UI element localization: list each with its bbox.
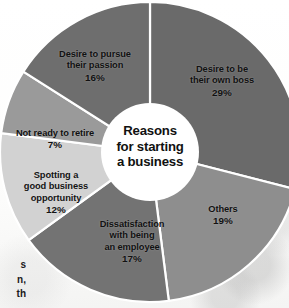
- slice-value: 29%: [176, 87, 268, 98]
- slice-label-line: Dissatisfaction: [84, 219, 180, 230]
- slice-value: 12%: [10, 204, 102, 215]
- slice-value: 16%: [44, 72, 146, 83]
- slice-label-desire-to-be-their-own-boss: Desire to be their own boss 29%: [176, 64, 268, 98]
- cropped-edge-caption: s n, th: [0, 258, 26, 302]
- slice-label-line: Desire to pursue: [44, 49, 146, 60]
- slice-label-line: their passion: [44, 60, 146, 71]
- center-title-line: Reasons: [94, 123, 206, 139]
- slice-value: 7%: [6, 139, 104, 150]
- slice-label-line: with being: [84, 230, 180, 241]
- center-title-line: for starting: [94, 139, 206, 155]
- slice-label-dissatisfaction-with-being-an-employee: Dissatisfaction with being an employee 1…: [84, 219, 180, 265]
- donut-chart-screenshot: Desire to be their own boss 29% Others 1…: [0, 0, 289, 308]
- slice-label-line: Not ready to retire: [6, 128, 104, 139]
- slice-label-line: their own boss: [176, 75, 268, 86]
- slice-label-line: Desire to be: [176, 64, 268, 75]
- chart-center-title: Reasons for starting a business: [94, 123, 206, 170]
- slice-label-line: opportunity: [10, 193, 102, 204]
- slice-label-others: Others 19%: [187, 204, 259, 227]
- slice-label-not-ready-to-retire: Not ready to retire 7%: [6, 128, 104, 151]
- slice-label-spotting-a-good-business-opportunity: Spotting a good business opportunity 12%: [10, 170, 102, 216]
- slice-value: 17%: [84, 253, 180, 264]
- slice-label-line: good business: [10, 181, 102, 192]
- slice-value: 19%: [187, 215, 259, 226]
- slice-label-line: Others: [187, 204, 259, 215]
- slice-label-line: Spotting a: [10, 170, 102, 181]
- slice-label-line: an employee: [84, 242, 180, 253]
- donut-chart: Desire to be their own boss 29% Others 1…: [0, 0, 289, 308]
- caption-fragment-line: s: [0, 258, 26, 273]
- slice-label-desire-to-pursue-their-passion: Desire to pursue their passion 16%: [44, 49, 146, 83]
- caption-fragment-line: th: [0, 287, 26, 302]
- caption-fragment-line: n,: [0, 273, 26, 288]
- center-title-line: a business: [94, 154, 206, 170]
